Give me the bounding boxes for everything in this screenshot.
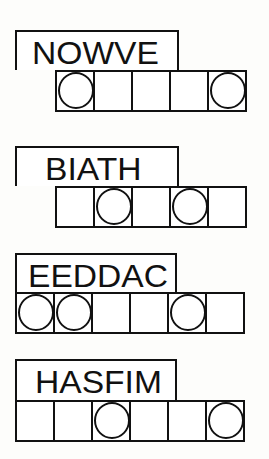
circle-marker-icon: [170, 294, 206, 331]
answer-cell-circled[interactable]: [207, 72, 247, 112]
scrambled-word: BIATH: [45, 149, 141, 189]
circle-marker-icon: [94, 402, 130, 439]
answer-cell-circled[interactable]: [55, 72, 95, 112]
answer-cell[interactable]: [53, 402, 93, 442]
answer-cells: [55, 70, 247, 112]
scrambled-word-box: HASFIM: [15, 359, 177, 400]
circle-marker-icon: [210, 72, 246, 109]
scrambled-word-box: EEDDAC: [15, 253, 177, 293]
scrambled-word: HASFIM: [35, 362, 162, 402]
scrambled-word-box: BIATH: [15, 146, 179, 186]
circle-marker-icon: [58, 72, 94, 109]
circle-marker-icon: [96, 188, 132, 225]
answer-cell[interactable]: [15, 402, 55, 442]
answer-cell-circled[interactable]: [169, 188, 209, 228]
answer-cell[interactable]: [129, 402, 169, 442]
answer-cell[interactable]: [91, 294, 131, 334]
answer-cell[interactable]: [207, 188, 247, 228]
scrambled-word: EEDDAC: [28, 256, 168, 296]
answer-cell[interactable]: [129, 294, 169, 334]
answer-cell[interactable]: [131, 72, 171, 112]
answer-cell[interactable]: [131, 188, 171, 228]
answer-cell-circled[interactable]: [167, 294, 207, 334]
answer-cell-circled[interactable]: [93, 188, 133, 228]
answer-cell[interactable]: [55, 188, 95, 228]
answer-cells: [15, 292, 245, 334]
answer-cell-circled[interactable]: [15, 294, 55, 334]
answer-cell[interactable]: [93, 72, 133, 112]
answer-cells: [15, 400, 245, 442]
circle-marker-icon: [208, 402, 244, 439]
answer-cell[interactable]: [169, 72, 209, 112]
circle-marker-icon: [18, 294, 54, 331]
scrambled-word: NOWVE: [32, 33, 159, 73]
answer-cell-circled[interactable]: [205, 402, 245, 442]
circle-marker-icon: [56, 294, 92, 331]
answer-cell-circled[interactable]: [53, 294, 93, 334]
answer-cell[interactable]: [167, 402, 207, 442]
answer-cell-circled[interactable]: [91, 402, 131, 442]
circle-marker-icon: [172, 188, 208, 225]
answer-cells: [55, 186, 247, 228]
answer-cell[interactable]: [205, 294, 245, 334]
scrambled-word-box: NOWVE: [15, 30, 179, 70]
